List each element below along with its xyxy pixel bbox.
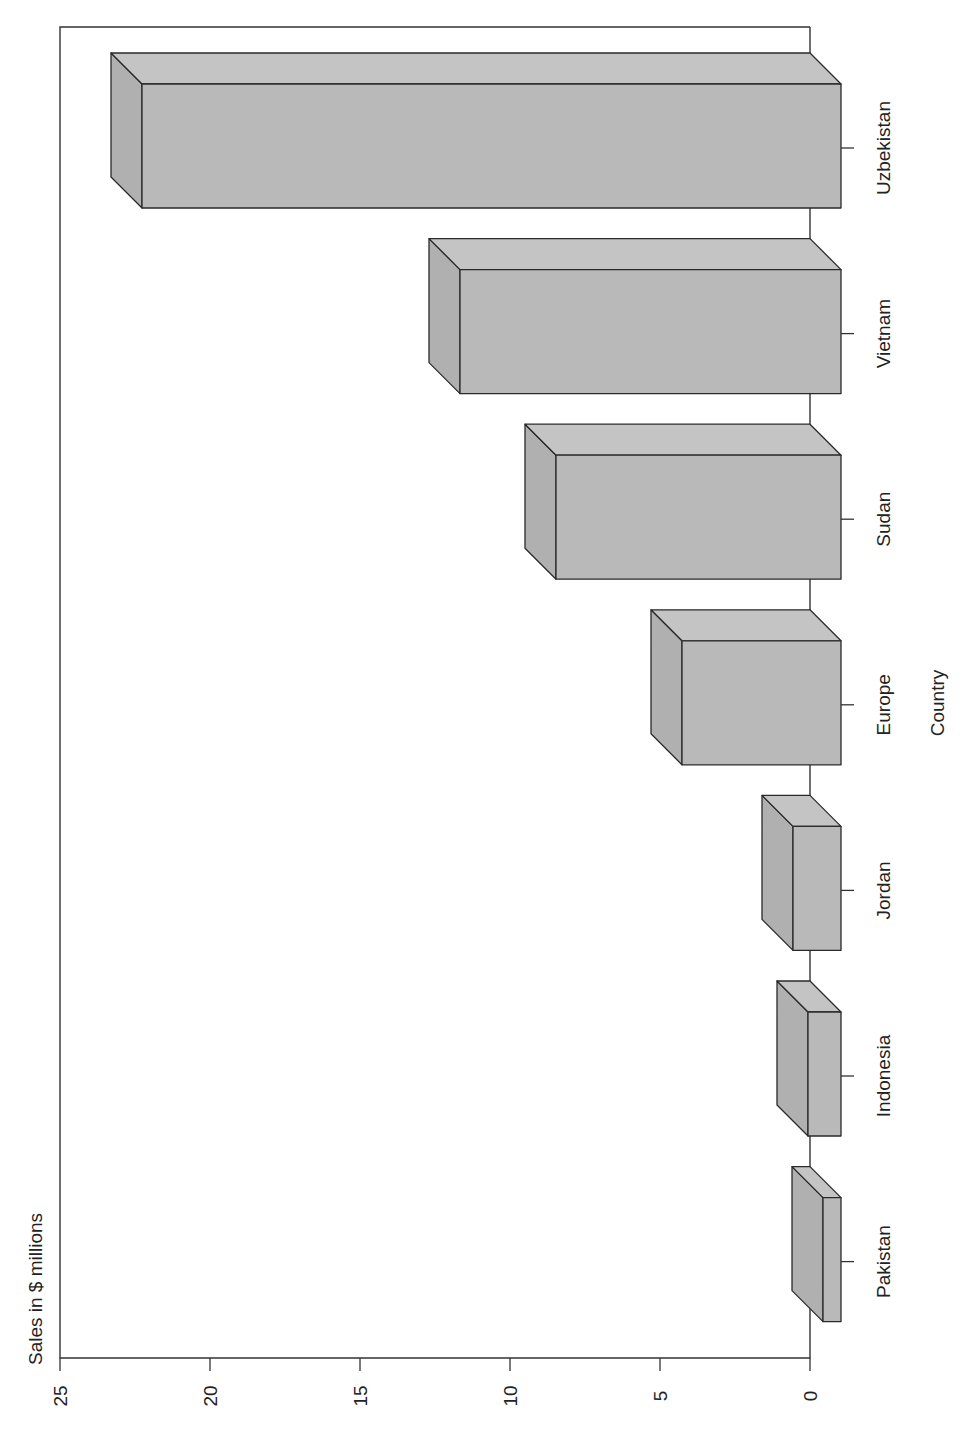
category-axis-title: Country [927, 669, 948, 736]
bar-indonesia [777, 981, 841, 1136]
bar-vietnam [429, 239, 841, 394]
value-axis: 0510152025 [50, 1358, 821, 1407]
category-axis: PakistanIndonesiaJordanEuropeSudanVietna… [841, 101, 894, 1298]
bar-uzbekistan [111, 53, 841, 208]
category-label-sudan: Sudan [873, 492, 894, 547]
category-label-europe: Europe [873, 674, 894, 735]
bar-sudan [525, 424, 841, 579]
category-label-pakistan: Pakistan [873, 1225, 894, 1298]
category-label-vietnam: Vietnam [873, 299, 894, 368]
value-tick-label: 20 [200, 1385, 221, 1406]
bar-europe [651, 610, 841, 765]
value-tick-label: 0 [800, 1391, 821, 1402]
bar-pakistan [792, 1167, 841, 1322]
category-label-uzbekistan: Uzbekistan [873, 101, 894, 195]
bar-chart: 0510152025 PakistanIndonesiaJordanEurope… [0, 0, 969, 1436]
bar-jordan [762, 795, 841, 950]
value-tick-label: 5 [650, 1391, 671, 1402]
category-label-indonesia: Indonesia [873, 1034, 894, 1117]
value-tick-label: 10 [500, 1385, 521, 1406]
bars-group [111, 53, 841, 1322]
value-axis-title: Sales in $ millions [25, 1213, 46, 1365]
value-tick-label: 25 [50, 1385, 71, 1406]
value-tick-label: 15 [350, 1385, 371, 1406]
category-label-jordan: Jordan [873, 861, 894, 919]
